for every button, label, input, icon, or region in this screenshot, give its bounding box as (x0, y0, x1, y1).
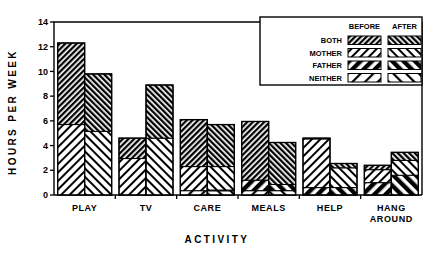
bar-segment-tv-after-both (146, 85, 173, 138)
y-tick-label: 4 (43, 141, 48, 151)
legend-swatch-mother-after (388, 49, 421, 58)
bar-segment-care-before-both (180, 120, 207, 167)
bar-segment-hang-around-before-father (364, 183, 391, 195)
bar-segment-help-after-father (330, 188, 357, 195)
legend-swatch-both-before (348, 36, 381, 45)
bar-segment-help-before-father (303, 188, 330, 195)
y-tick-label: 14 (38, 17, 48, 27)
legend: BEFOREAFTERBOTHMOTHERFATHERNEITHER (260, 17, 422, 85)
legend-row-label: NEITHER (309, 74, 343, 83)
category-label: HANG (377, 203, 406, 213)
y-tick-label: 10 (38, 67, 48, 77)
category-label: PLAY (72, 203, 98, 213)
legend-row-label: MOTHER (310, 49, 343, 58)
y-tick-label: 6 (43, 116, 48, 126)
legend-row-label: FATHER (313, 61, 343, 70)
legend-swatch-mother-before (348, 49, 381, 58)
legend-column-header: AFTER (392, 22, 418, 31)
bar-segment-meals-after-both (269, 142, 296, 184)
legend-column-header: BEFORE (349, 22, 380, 31)
y-tick-label: 0 (43, 190, 48, 200)
bar-segment-hang-around-after-mother (391, 160, 418, 175)
legend-swatch-father-after (388, 61, 421, 70)
bar-segment-meals-before-both (242, 121, 269, 180)
category-label: MEALS (251, 203, 286, 213)
bar-segment-care-after-both (207, 125, 234, 167)
y-axis-ticks: 02468101214 (38, 17, 54, 200)
x-axis-title: ACTIVITY (185, 234, 250, 245)
legend-swatch-father-before (348, 61, 381, 70)
bar-segment-hang-around-after-father (391, 175, 418, 195)
y-tick-label: 12 (38, 42, 48, 52)
bar-segment-meals-after-father (269, 184, 296, 190)
legend-swatch-both-after (388, 36, 421, 45)
legend-row-label: BOTH (321, 36, 342, 45)
bar-segment-hang-around-after-both (391, 152, 418, 160)
category-label: CARE (193, 203, 221, 213)
chart-canvas: 02468101214 PLAYTVCAREMEALSHELPHANGAROUN… (0, 0, 434, 253)
category-label: AROUND (370, 214, 413, 224)
category-labels: PLAYTVCAREMEALSHELPHANGAROUND (72, 203, 413, 224)
y-tick-label: 8 (43, 91, 48, 101)
bar-segment-play-before-mother (58, 125, 85, 195)
bar-segment-care-after-mother (207, 167, 234, 190)
category-label: TV (140, 203, 153, 213)
bar-segment-play-after-mother (85, 131, 112, 195)
legend-swatch-neither-before (348, 74, 381, 83)
bar-segment-tv-before-mother (119, 159, 146, 195)
bar-segment-play-before-both (58, 43, 85, 125)
bar-chart: 02468101214 PLAYTVCAREMEALSHELPHANGAROUN… (0, 0, 434, 253)
bar-segment-meals-before-father (242, 180, 269, 191)
category-label: HELP (317, 203, 343, 213)
bar-segment-help-before-mother (303, 139, 330, 188)
bar-segment-care-before-mother (180, 167, 207, 191)
y-tick-label: 2 (43, 165, 48, 175)
y-axis-title: HOURS PER WEEK (7, 49, 18, 175)
bar-segment-help-after-mother (330, 168, 357, 188)
legend-swatch-neither-after (388, 74, 421, 83)
bar-segment-tv-before-both (119, 138, 146, 158)
bar-segment-hang-around-before-mother (364, 170, 391, 183)
bar-segment-play-after-both (85, 74, 112, 131)
bar-segment-tv-after-mother (146, 138, 173, 195)
